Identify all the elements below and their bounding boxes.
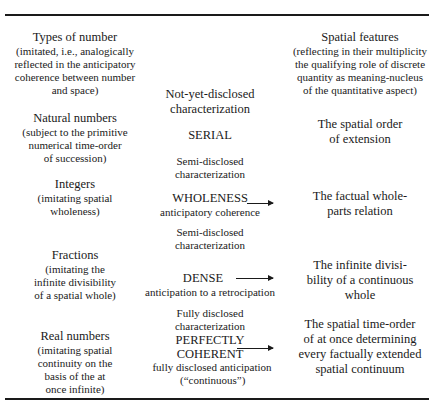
sub-wholeness: anticipatory coherence <box>145 206 275 218</box>
right-header-line: quantity as meaning-nucleus <box>290 71 430 84</box>
caption-line: characterization <box>145 168 275 181</box>
row-title: Real numbers <box>10 329 140 344</box>
row-line: continuity on the <box>10 357 140 370</box>
sub-dense: anticipation to a retrocipation <box>140 286 280 298</box>
row-line: wholeness) <box>10 205 140 218</box>
row-line: The spatial order <box>290 117 430 132</box>
row-line: The factual whole- <box>290 189 430 204</box>
caption-line: characterization <box>140 320 280 333</box>
right-row-spatial-time-order: The spatial time-order of at once determ… <box>290 317 430 377</box>
left-row-integers: Integers (imitating spatial wholeness) <box>10 177 140 218</box>
row-title: Integers <box>10 177 140 192</box>
caption-line: characterization <box>145 102 275 117</box>
right-header-line: of the quantitative aspect) <box>290 84 430 97</box>
row-line: of at once determining <box>290 332 430 347</box>
row-line: (imitating spatial <box>10 344 140 357</box>
row-line: parts relation <box>290 204 430 219</box>
right-header: Spatial features (reflecting in their mu… <box>290 30 430 97</box>
left-row-real: Real numbers (imitating spatial continui… <box>10 329 140 396</box>
middle-item-wholeness: Semi-disclosed characterization WHOLENES… <box>145 155 275 218</box>
row-title: Natural numbers <box>10 111 140 126</box>
row-line: whole <box>290 288 430 303</box>
term-line: PERFECTLY <box>140 333 280 347</box>
row-line: spatial continuum <box>290 362 430 377</box>
caption-semi-2: Semi-disclosed characterization <box>145 226 275 252</box>
caption-line: Semi-disclosed <box>145 226 275 239</box>
row-line: infinite divisibility <box>10 276 140 289</box>
term-serial: SERIAL <box>145 128 275 143</box>
left-header-line: coherence between number <box>10 71 140 84</box>
right-row-order-of-extension: The spatial order of extension <box>290 117 430 147</box>
right-row-whole-parts: The factual whole- parts relation <box>290 189 430 219</box>
right-header-title: Spatial features <box>290 30 430 45</box>
middle-item-dense: DENSE anticipation to a retrocipation <box>140 271 280 298</box>
arrow-icon <box>237 348 273 349</box>
caption-line: Semi-disclosed <box>145 155 275 168</box>
sub-line: fully disclosed anticipation <box>140 361 280 374</box>
term-line: COHERENT <box>140 347 280 361</box>
row-line: (subject to the primitive <box>10 126 140 139</box>
bottom-rule <box>5 398 429 400</box>
arrow-icon <box>247 203 273 204</box>
right-header-line: the qualifying role of discrete <box>290 58 430 71</box>
top-rule <box>5 14 429 16</box>
row-line: of extension <box>290 132 430 147</box>
row-line: numerical time-order <box>10 139 140 152</box>
row-line: The spatial time-order <box>290 317 430 332</box>
row-line: (imitating the <box>10 263 140 276</box>
left-header-line: and space) <box>10 84 140 97</box>
left-header-line: reflected in the anticipatory <box>10 58 140 71</box>
left-row-fractions: Fractions (imitating the infinite divisi… <box>10 248 140 302</box>
right-header-line: (reflecting in their multiplicity <box>290 45 430 58</box>
arrow-icon <box>236 278 273 279</box>
row-line: bility of a continuous <box>290 273 430 288</box>
row-line: once infinite) <box>10 383 140 396</box>
row-line: (imitating spatial <box>10 192 140 205</box>
caption-line: Not-yet-disclosed <box>145 87 275 102</box>
middle-item-serial: Not-yet-disclosed characterization SERIA… <box>145 87 275 143</box>
caption-line: characterization <box>145 239 275 252</box>
row-line: of a spatial whole) <box>10 289 140 302</box>
row-title: Fractions <box>10 248 140 263</box>
caption-line: Fully disclosed <box>140 307 280 320</box>
row-line: every factually extended <box>290 347 430 362</box>
left-header-title: Types of number <box>10 30 140 45</box>
left-row-natural: Natural numbers (subject to the primitiv… <box>10 111 140 165</box>
row-line: The infinite divisi- <box>290 258 430 273</box>
middle-item-perfectly-coherent: Fully disclosed characterization PERFECT… <box>140 307 280 387</box>
right-row-infinite-divisibility: The infinite divisi- bility of a continu… <box>290 258 430 303</box>
row-line: of succession) <box>10 152 140 165</box>
left-header: Types of number (imitated, i.e., analogi… <box>10 30 140 97</box>
row-line: basis of the at <box>10 370 140 383</box>
sub-line: (“continuous”) <box>140 374 280 387</box>
left-header-line: (imitated, i.e., analogically <box>10 45 140 58</box>
